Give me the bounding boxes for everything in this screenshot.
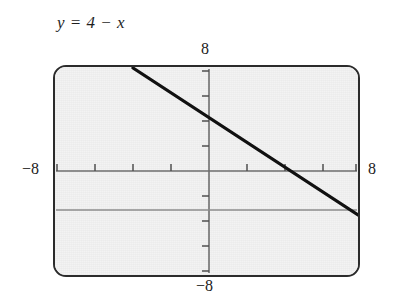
y-axis-min-label: −8 [196,277,213,295]
x-axis-ticks [57,164,356,171]
equation-caption: y = 4 − x [57,13,125,33]
x-axis-min-label: −8 [22,160,39,178]
x-axis-max-label: 8 [368,160,376,178]
series-line-y-equals-4-minus-x [133,68,358,215]
plot-canvas [55,67,358,275]
calculator-screen [53,65,360,277]
y-axis-max-label: 8 [201,40,209,58]
graph-figure: y = 4 − x [0,0,394,303]
